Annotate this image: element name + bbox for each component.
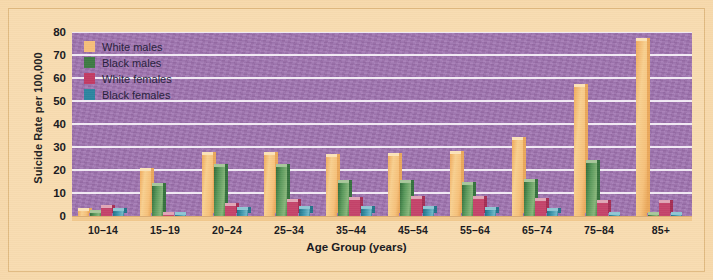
bar-white-males-25-34 — [264, 155, 275, 216]
bar-face — [597, 203, 608, 216]
y-tick-30: 30 — [26, 141, 66, 153]
bar-group — [444, 32, 506, 216]
bar-face — [152, 186, 163, 216]
legend-item-label: Black males — [102, 57, 161, 69]
x-tick-10-14: 10–14 — [68, 224, 138, 236]
bar-top — [140, 168, 151, 171]
bar-top — [152, 183, 163, 186]
bar-face — [512, 140, 523, 216]
bar-top — [423, 206, 434, 209]
bar-top — [462, 182, 473, 185]
bar-face — [450, 154, 461, 216]
bar-face — [349, 200, 360, 216]
bar-group — [320, 32, 382, 216]
bar-face — [586, 163, 597, 216]
bar-top — [276, 164, 287, 167]
bar-face — [299, 209, 310, 216]
legend-item-white-males: White males — [84, 40, 172, 53]
bar-face — [361, 209, 372, 216]
bar-top — [535, 198, 546, 201]
bar-top — [237, 207, 248, 210]
white-females-swatch — [84, 73, 95, 84]
bar-white-females-75-84 — [597, 203, 608, 216]
bar-face — [524, 182, 535, 217]
bar-white-females-10-14 — [101, 208, 112, 216]
y-tick-20: 20 — [26, 164, 66, 176]
y-tick-10: 10 — [26, 187, 66, 199]
bar-top — [78, 208, 89, 211]
bar-face — [411, 199, 422, 216]
bar-top — [287, 199, 298, 202]
bar-face — [326, 157, 337, 216]
y-tick-50: 50 — [26, 95, 66, 107]
bar-side — [310, 206, 313, 213]
chart-figure: Suicide Rate per 100,000 010203040506070… — [0, 0, 713, 280]
bar-white-females-85+ — [659, 203, 670, 216]
legend-item-label: White males — [102, 41, 163, 53]
legend-item-black-females: Black females — [84, 88, 172, 101]
bar-side — [558, 208, 561, 213]
bar-top — [264, 152, 275, 155]
bar-top — [90, 210, 101, 213]
bar-side — [647, 38, 650, 213]
bar-white-males-85+ — [636, 41, 647, 216]
bar-group — [568, 32, 630, 216]
bar-top — [648, 212, 659, 215]
bar-top — [512, 137, 523, 140]
bar-top — [338, 180, 349, 183]
bar-white-males-15-19 — [140, 171, 151, 216]
bar-face — [535, 201, 546, 216]
bar-face — [400, 183, 411, 216]
bar-black-males-15-19 — [152, 186, 163, 216]
bar-face — [276, 167, 287, 216]
y-tick-40: 40 — [26, 118, 66, 130]
bar-white-males-20-24 — [202, 155, 213, 216]
bar-face — [659, 203, 670, 216]
white-males-swatch — [84, 41, 95, 52]
bar-top — [636, 38, 647, 41]
bar-face — [264, 155, 275, 216]
bar-white-females-45-54 — [411, 199, 422, 216]
bar-group — [196, 32, 258, 216]
bar-top — [671, 212, 682, 215]
bar-top — [349, 197, 360, 200]
y-tick-80: 80 — [26, 26, 66, 38]
bar-side — [163, 183, 166, 213]
bar-black-males-55-64 — [462, 185, 473, 216]
bar-group — [258, 32, 320, 216]
y-tick-0: 0 — [26, 210, 66, 222]
bar-top — [547, 208, 558, 211]
bar-side — [372, 206, 375, 213]
bar-side — [434, 206, 437, 213]
bar-top — [485, 207, 496, 210]
x-tick-65-74: 65–74 — [502, 224, 572, 236]
bar-face — [101, 208, 112, 216]
bar-black-males-75-84 — [586, 163, 597, 216]
bar-black-males-20-24 — [214, 167, 225, 216]
bar-black-females-45-54 — [423, 209, 434, 216]
bar-black-males-45-54 — [400, 183, 411, 216]
legend: White malesBlack malesWhite femalesBlack… — [84, 40, 172, 101]
bar-top — [388, 153, 399, 156]
bar-top — [214, 164, 225, 167]
bar-top — [524, 179, 535, 182]
bar-face — [423, 209, 434, 216]
x-tick-85+: 85+ — [626, 224, 696, 236]
bar-top — [101, 205, 112, 208]
bar-face — [214, 167, 225, 216]
y-tick-60: 60 — [26, 72, 66, 84]
bar-white-females-35-44 — [349, 200, 360, 216]
x-axis-title: Age Group (years) — [0, 241, 713, 253]
bar-top — [659, 200, 670, 203]
bar-top — [163, 212, 174, 215]
legend-item-black-males: Black males — [84, 56, 172, 69]
bar-face — [140, 171, 151, 216]
bar-face — [202, 155, 213, 216]
bar-face — [287, 202, 298, 216]
bar-face — [338, 183, 349, 216]
legend-item-label: Black females — [102, 89, 170, 101]
x-tick-25-34: 25–34 — [254, 224, 324, 236]
bar-side — [124, 208, 127, 213]
bar-group — [630, 32, 692, 216]
bar-top — [411, 196, 422, 199]
